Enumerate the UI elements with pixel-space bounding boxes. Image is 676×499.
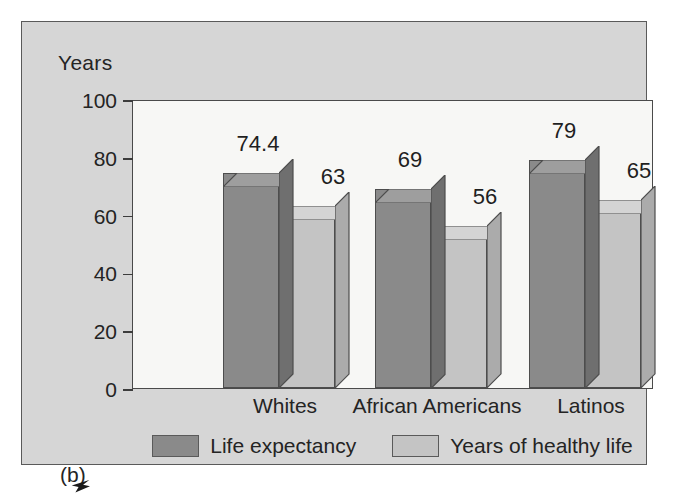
legend-label: Years of healthy life bbox=[450, 434, 633, 458]
bar bbox=[223, 159, 279, 388]
legend-item: Life expectancy bbox=[152, 434, 356, 458]
y-axis-tick-label: 100 bbox=[82, 89, 123, 113]
bar-side-face bbox=[487, 212, 503, 388]
y-axis-tick-mark bbox=[123, 331, 133, 333]
plot-area: 020406080100 74.46369567965 bbox=[132, 100, 653, 389]
y-axis-tick-mark bbox=[123, 389, 133, 391]
legend-swatch bbox=[152, 435, 199, 457]
y-axis-tick: 0 bbox=[105, 378, 133, 402]
bar-side-face bbox=[431, 175, 447, 388]
legend-swatch bbox=[392, 435, 439, 457]
bar-value-label: 63 bbox=[321, 164, 345, 190]
bar bbox=[529, 146, 585, 388]
bar-side-face bbox=[279, 159, 295, 388]
y-axis-tick-label: 80 bbox=[94, 147, 123, 171]
y-axis-tick: 40 bbox=[94, 262, 133, 286]
y-axis-tick-label: 40 bbox=[94, 262, 123, 286]
y-axis-tick-mark bbox=[123, 158, 133, 160]
y-axis-tick: 80 bbox=[94, 147, 133, 171]
bar-value-label: 56 bbox=[473, 184, 497, 210]
bar-value-label: 79 bbox=[552, 118, 576, 144]
bar-front-face bbox=[375, 189, 431, 388]
y-axis-title: Years bbox=[58, 51, 112, 75]
y-axis-tick-mark bbox=[123, 100, 133, 102]
chart-panel: Years 020406080100 74.46369567965 Whites… bbox=[21, 21, 647, 465]
bar-side-face bbox=[585, 146, 601, 388]
bar-value-label: 69 bbox=[398, 147, 422, 173]
figure-container: Years 020406080100 74.46369567965 Whites… bbox=[0, 0, 676, 499]
bar-side-face bbox=[641, 186, 657, 388]
legend-item: Years of healthy life bbox=[392, 434, 633, 458]
y-axis-tick-label: 0 bbox=[105, 378, 123, 402]
y-axis-tick-mark bbox=[123, 216, 133, 218]
bar-value-label: 65 bbox=[627, 158, 651, 184]
y-axis-tick-label: 60 bbox=[94, 205, 123, 229]
bar-side-face bbox=[335, 192, 351, 388]
bar-front-face bbox=[529, 160, 585, 388]
y-axis-tick: 20 bbox=[94, 320, 133, 344]
bar bbox=[375, 175, 431, 388]
y-axis-tick-mark bbox=[123, 274, 133, 276]
y-axis-tick: 100 bbox=[82, 89, 133, 113]
chart-legend: Life expectancyYears of healthy life bbox=[132, 434, 653, 458]
bar-front-face bbox=[223, 173, 279, 388]
y-axis-tick-label: 20 bbox=[94, 320, 123, 344]
x-axis-category-label: Whites bbox=[253, 394, 317, 418]
bar-value-label: 74.4 bbox=[237, 131, 280, 157]
x-axis-category-label: African Americans bbox=[352, 394, 521, 418]
legend-label: Life expectancy bbox=[210, 434, 356, 458]
x-axis-category-label: Latinos bbox=[557, 394, 625, 418]
y-axis-tick: 60 bbox=[94, 205, 133, 229]
arrow-marker-icon bbox=[66, 474, 92, 496]
